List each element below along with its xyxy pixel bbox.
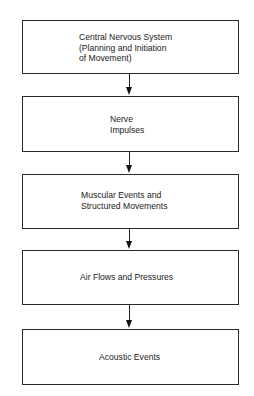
node-label: Central Nervous System (Planning and Ini… bbox=[79, 32, 172, 64]
node-acoustic-events: Acoustic Events bbox=[22, 329, 239, 385]
arrow-down-icon bbox=[129, 229, 131, 250]
node-label: Muscular Events and Structured Movements bbox=[81, 190, 167, 211]
node-central-nervous-system: Central Nervous System (Planning and Ini… bbox=[22, 20, 239, 74]
node-muscular-events: Muscular Events and Structured Movements bbox=[22, 174, 239, 229]
node-nerve-impulses: Nerve Impulses bbox=[22, 96, 239, 152]
node-label: Acoustic Events bbox=[99, 352, 160, 363]
arrow-down-icon bbox=[129, 305, 131, 329]
node-air-flows-pressures: Air Flows and Pressures bbox=[22, 250, 239, 305]
node-label: Nerve Impulses bbox=[110, 114, 144, 135]
node-label: Air Flows and Pressures bbox=[80, 272, 173, 283]
arrow-down-icon bbox=[129, 74, 131, 96]
arrow-down-icon bbox=[129, 152, 131, 174]
